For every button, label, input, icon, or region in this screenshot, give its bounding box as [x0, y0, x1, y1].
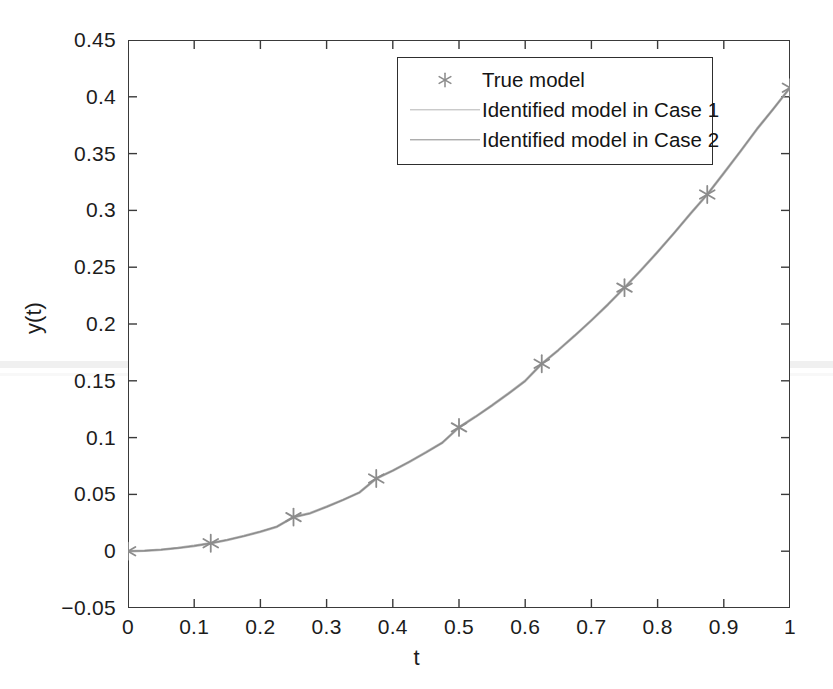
- x-tick-label: 0.6: [510, 615, 540, 639]
- y-tick-label: 0.35: [74, 142, 116, 166]
- legend-key-true-model: [408, 67, 482, 93]
- legend-label: Identified model in Case 2: [482, 130, 719, 151]
- y-tick-label: 0.15: [74, 369, 116, 393]
- y-tick-label: 0.25: [74, 255, 116, 279]
- star-marker-icon: [436, 71, 454, 89]
- y-tick-label: 0.05: [74, 482, 116, 506]
- y-tick-label: 0.3: [86, 198, 116, 222]
- y-tick-label: −0.05: [61, 596, 116, 620]
- x-tick-label: 0.8: [643, 615, 673, 639]
- legend-label: True model: [482, 70, 585, 91]
- x-tick-label: 0.1: [179, 615, 209, 639]
- x-tick-label: 0.2: [245, 615, 275, 639]
- x-tick-label: 0.4: [378, 615, 408, 639]
- legend-label: Identified model in Case 1: [482, 100, 719, 121]
- x-tick-label: 0.7: [576, 615, 606, 639]
- x-tick-label: 0.3: [312, 615, 342, 639]
- figure-canvas: −0.0500.050.10.150.20.250.30.350.40.45 0…: [0, 0, 833, 689]
- x-tick-label: 1: [784, 615, 796, 639]
- legend-entry-case-2[interactable]: Identified model in Case 2: [408, 125, 702, 155]
- legend-key-case-2: [408, 127, 482, 153]
- y-tick-label: 0.2: [86, 312, 116, 336]
- y-axis-title: y(t): [21, 268, 47, 368]
- x-axis-title: t: [0, 645, 833, 671]
- legend-entry-case-1[interactable]: Identified model in Case 1: [408, 95, 702, 125]
- y-tick-label: 0.45: [74, 28, 116, 52]
- y-tick-label: 0: [104, 539, 116, 563]
- line-swatch-case-1: [410, 109, 480, 110]
- x-tick-label: 0.5: [444, 615, 474, 639]
- y-tick-label: 0.4: [86, 85, 116, 109]
- legend-entry-true-model[interactable]: True model: [408, 65, 702, 95]
- legend-key-case-1: [408, 97, 482, 123]
- x-tick-label: 0.9: [709, 615, 739, 639]
- x-tick-label: 0: [122, 615, 134, 639]
- y-tick-label: 0.1: [86, 426, 116, 450]
- line-swatch-case-2: [410, 139, 480, 140]
- legend[interactable]: True model Identified model in Case 1 Id…: [397, 57, 713, 165]
